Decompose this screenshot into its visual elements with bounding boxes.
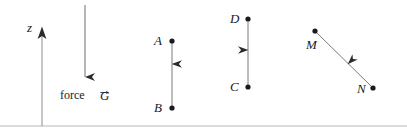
physics-vector-diagram: z force G A B C D M N: [0, 0, 407, 131]
diagram-canvas: [0, 0, 407, 131]
vector-ab: [169, 38, 174, 110]
point-n-label: N: [357, 82, 366, 95]
point-c-label: C: [230, 80, 239, 93]
point-b-label: B: [154, 101, 162, 114]
vector-mn: [312, 28, 375, 90]
point-d-label: D: [230, 12, 239, 25]
vector-mn-shaft: [316, 32, 371, 86]
point-b-dot: [169, 105, 174, 110]
point-c-dot: [245, 84, 250, 89]
force-label: force: [60, 89, 85, 101]
point-m-dot: [312, 28, 317, 33]
point-a-dot: [169, 38, 174, 43]
point-a-label: A: [154, 34, 162, 47]
vector-overbar-arrow-icon: [100, 89, 109, 95]
g-vector-label: G: [100, 89, 109, 102]
point-n-dot: [370, 85, 375, 90]
vector-cd: [245, 16, 250, 89]
z-axis-label: z: [27, 21, 32, 34]
z-axis: [38, 27, 47, 127]
point-m-label: M: [306, 38, 317, 51]
point-d-dot: [245, 16, 250, 21]
